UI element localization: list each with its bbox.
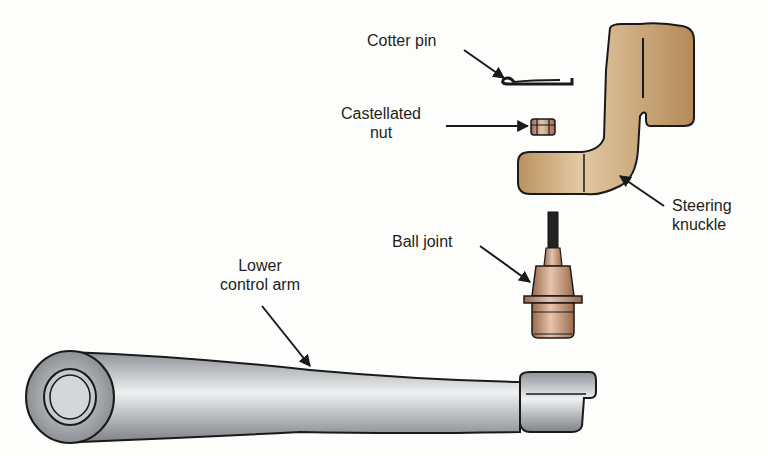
castellated-nut: [531, 119, 555, 135]
lower-control-arm-label-line1: Lower: [200, 256, 320, 275]
cotter-pin: [503, 78, 572, 84]
diagram-canvas: [0, 0, 768, 456]
ball-joint: [524, 212, 582, 338]
castellated-nut-label: Castellated nut: [328, 104, 434, 142]
steering-knuckle-label-line2: knuckle: [672, 215, 732, 234]
ball-joint-label: Ball joint: [392, 232, 452, 251]
steering-knuckle-label: Steering knuckle: [672, 196, 732, 234]
castellated-nut-label-line1: Castellated: [328, 104, 434, 123]
cotter-pin-arrow: [464, 50, 504, 78]
lower-control-arm: [26, 351, 596, 443]
lower-control-arm-label: Lower control arm: [200, 256, 320, 294]
steering-knuckle: [518, 23, 694, 194]
cotter-pin-label: Cotter pin: [367, 31, 436, 50]
steering-knuckle-arrow: [620, 176, 664, 206]
steering-knuckle-label-line1: Steering: [672, 196, 732, 215]
lower-control-arm-label-line2: control arm: [200, 275, 320, 294]
ball-joint-arrow: [480, 246, 530, 282]
castellated-nut-label-line2: nut: [328, 123, 434, 142]
lower-control-arm-arrow: [262, 306, 310, 366]
